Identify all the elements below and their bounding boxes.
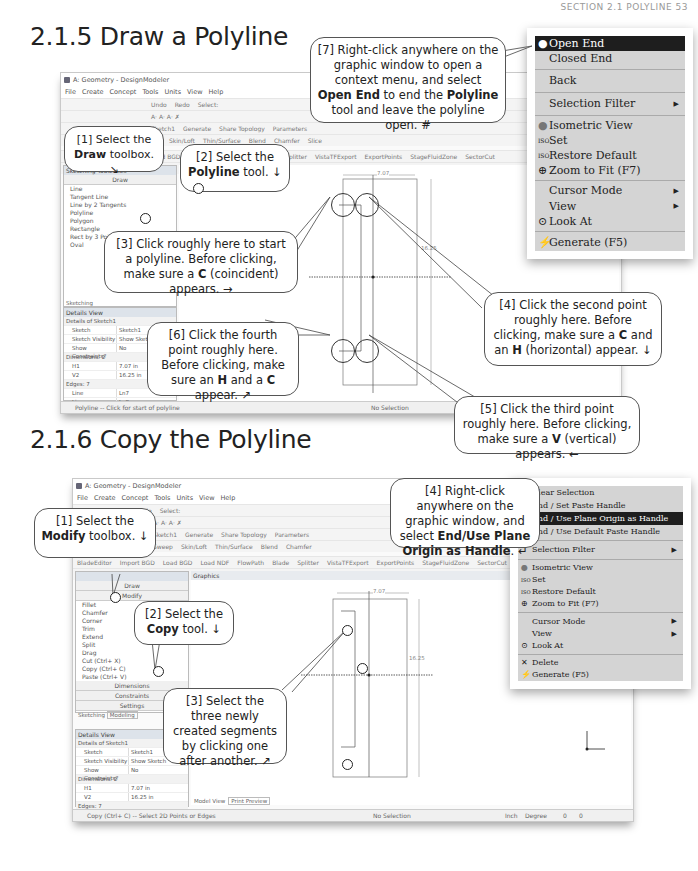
tab-sketching[interactable]: Sketching <box>78 712 105 718</box>
look-at-icon: ⊙ <box>538 214 547 229</box>
menu-create[interactable]: Create <box>94 494 116 502</box>
menu-item-selection-filter[interactable]: Selection Filter▶ <box>535 95 685 113</box>
menu-file[interactable]: File <box>65 88 76 96</box>
export-points-button[interactable]: ExportPoints <box>377 559 415 566</box>
parameters-button[interactable]: Parameters <box>275 531 309 538</box>
menu-create[interactable]: Create <box>82 88 104 96</box>
menu-item-look-at[interactable]: ⊙Look At <box>518 640 683 652</box>
menu-concept[interactable]: Concept <box>110 88 137 96</box>
draw-toolbox-tab[interactable]: Draw <box>64 175 176 185</box>
menu-file[interactable]: File <box>77 494 88 502</box>
tool-cut[interactable]: Cut (Ctrl+ X) <box>76 657 188 665</box>
undo-button[interactable]: Undo <box>151 101 167 108</box>
sector-cut-button[interactable]: SectorCut <box>465 153 495 160</box>
menu-concept[interactable]: Concept <box>122 494 149 502</box>
selection-status: No Selection <box>373 810 411 821</box>
slice-button[interactable]: Slice <box>308 137 322 144</box>
tab-print-preview[interactable]: Print Preview <box>228 797 270 805</box>
dimension-row: H17.07 in <box>76 784 188 793</box>
menu-item-isometric-view[interactable]: ●Isometric View <box>535 118 685 133</box>
tool-drag[interactable]: Drag <box>76 649 188 657</box>
tool-tangent-line[interactable]: Tangent Line <box>64 193 176 201</box>
menu-item-end-set-paste-handle[interactable]: End / Set Paste Handle <box>518 499 683 512</box>
flowpath-button[interactable]: FlowPath <box>237 559 264 566</box>
menu-item-view[interactable]: View▶ <box>535 199 685 214</box>
blade-button[interactable]: Blade <box>272 559 289 566</box>
parameters-button[interactable]: Parameters <box>273 125 307 132</box>
menu-item-closed-end[interactable]: Closed End <box>535 51 685 67</box>
import-bgd-button[interactable]: Import BGD <box>120 559 155 566</box>
menu-item-end-use-plane-origin[interactable]: ●End / Use Plane Origin as Handle <box>518 512 683 525</box>
menu-item-cursor-mode[interactable]: Cursor Mode▶ <box>535 183 685 199</box>
generate-button[interactable]: Generate <box>185 531 213 538</box>
selection-status: No Selection <box>371 402 409 413</box>
load-ndf-button[interactable]: Load NDF <box>200 559 229 566</box>
dimensions-group[interactable]: Dimensions: 2 <box>76 775 188 784</box>
menu-units[interactable]: Units <box>176 494 193 502</box>
menu-item-selection-filter[interactable]: Selection Filter▶ <box>518 543 683 557</box>
menu-units[interactable]: Units <box>164 88 181 96</box>
menu-item-zoom-to-fit[interactable]: ⊕Zoom to Fit (F7) <box>535 163 685 178</box>
export-points-button[interactable]: ExportPoints <box>365 153 403 160</box>
vistatf-export-button[interactable]: VistaTFExport <box>327 559 369 566</box>
tool-paste[interactable]: Paste (Ctrl+ V) <box>76 673 188 681</box>
stage-fluid-zone-button[interactable]: StageFluidZone <box>410 153 457 160</box>
skin-loft-button[interactable]: Skin/Loft <box>181 543 207 550</box>
skin-loft-button[interactable]: Skin/Loft <box>169 137 195 144</box>
share-topology-button[interactable]: Share Topology <box>221 531 267 538</box>
status-count-1: 0 <box>563 810 567 821</box>
menu-item-generate[interactable]: ⚡Generate (F5) <box>518 669 683 681</box>
share-topology-button[interactable]: Share Topology <box>219 125 265 132</box>
menu-item-end-use-default-paste-handle[interactable]: End / Use Default Paste Handle <box>518 525 683 538</box>
modify-toolbox-tab[interactable]: Modify <box>76 591 188 601</box>
blade-editor-button[interactable]: BladeEditor <box>77 559 112 566</box>
menu-item-zoom-to-fit[interactable]: ⊕Zoom to Fit (F7) <box>518 598 683 610</box>
menu-item-set[interactable]: ISOSet <box>518 574 683 586</box>
menu-item-look-at[interactable]: ⊙Look At <box>535 214 685 229</box>
app-icon <box>64 77 70 83</box>
menu-item-isometric-view[interactable]: ●Isometric View <box>518 562 683 574</box>
menu-view[interactable]: View <box>199 494 214 502</box>
select-mode-label[interactable]: Select: <box>198 101 219 108</box>
load-bgd-button[interactable]: Load BGD <box>163 559 193 566</box>
sketch-dropdown[interactable]: Sketch1 <box>153 531 177 538</box>
tool-polyline[interactable]: Polyline <box>64 209 176 217</box>
sector-cut-button[interactable]: SectorCut <box>477 559 507 566</box>
vistatf-export-button[interactable]: VistaTFExport <box>315 153 357 160</box>
draw-toolbox-tab[interactable]: Draw <box>76 581 188 591</box>
menu-item-restore-default[interactable]: ISORestore Default <box>535 148 685 163</box>
generate-button[interactable]: Generate <box>183 125 211 132</box>
menu-tools[interactable]: Tools <box>142 88 158 96</box>
menu-help[interactable]: Help <box>208 88 223 96</box>
stage-fluid-zone-button[interactable]: StageFluidZone <box>422 559 469 566</box>
menu-view[interactable]: View <box>187 88 202 96</box>
tool-line-by-2-tangents[interactable]: Line by 2 Tangents <box>64 201 176 209</box>
menu-item-back[interactable]: Back <box>535 72 685 90</box>
menu-item-cursor-mode[interactable]: Cursor Mode▶ <box>518 615 683 628</box>
chamfer-button[interactable]: Chamfer <box>286 543 312 550</box>
redo-button[interactable]: Redo <box>175 101 190 108</box>
tab-model-view[interactable]: Model View <box>191 798 228 804</box>
menu-item-open-end[interactable]: ●Open End <box>535 36 685 51</box>
menu-item-delete[interactable]: ✕Delete <box>518 657 683 669</box>
splitter-button[interactable]: Splitter <box>297 559 319 566</box>
menu-item-restore-default[interactable]: ISORestore Default <box>518 586 683 598</box>
tool-line[interactable]: Line <box>64 185 176 193</box>
menu-item-clear-selection[interactable]: Clear Selection <box>518 486 683 499</box>
menu-item-generate[interactable]: ⚡Generate (F5) <box>535 234 685 251</box>
menu-item-set[interactable]: ISOSet <box>535 133 685 148</box>
select-mode-label[interactable]: Select: <box>160 507 181 514</box>
chamfer-button[interactable]: Chamfer <box>274 137 300 144</box>
sketching-tab[interactable]: Sketching <box>64 300 93 306</box>
thin-surface-button[interactable]: Thin/Surface <box>215 543 253 550</box>
menu-item-view[interactable]: View▶ <box>518 628 683 640</box>
page-header: SECTION 2.1 POLYLINE 53 <box>561 2 688 12</box>
tool-copy[interactable]: Copy (Ctrl+ C) <box>76 665 188 673</box>
tool-polygon[interactable]: Polygon <box>64 217 176 225</box>
blend-button[interactable]: Blend <box>249 137 266 144</box>
menu-help[interactable]: Help <box>220 494 235 502</box>
blend-button[interactable]: Blend <box>261 543 278 550</box>
menu-tools[interactable]: Tools <box>154 494 170 502</box>
tab-modeling[interactable]: Modeling <box>107 711 138 719</box>
thin-surface-button[interactable]: Thin/Surface <box>203 137 241 144</box>
